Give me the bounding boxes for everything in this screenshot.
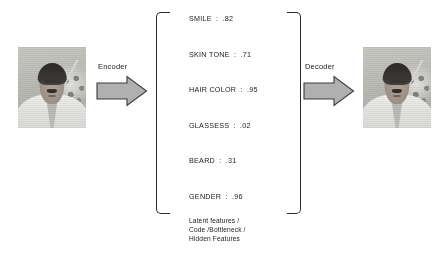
latent-caption-line: Code /Bottleneck / — [189, 225, 246, 234]
latent-feature-value: .02 — [240, 121, 251, 130]
latent-feature-name: BEARD — [189, 156, 215, 165]
latent-caption-line: Latent features / — [189, 216, 246, 225]
encoder-label: Encoder — [96, 62, 148, 71]
latent-feature-name: SMILE — [189, 14, 212, 23]
latent-feature-value: .31 — [226, 156, 237, 165]
latent-feature-separator: : — [240, 85, 242, 94]
latent-feature-value: .96 — [232, 192, 243, 201]
latent-feature-row: GLASSESS : .02 — [189, 121, 289, 157]
latent-caption-line: Hidden Features — [189, 234, 246, 243]
latent-feature-name: HAIR COLOR — [189, 85, 236, 94]
latent-feature-separator: : — [234, 50, 236, 59]
encoder-group: Encoder — [96, 62, 148, 107]
latent-feature-row: BEARD : .31 — [189, 156, 289, 192]
right-block-arrow-icon — [96, 75, 148, 107]
latent-feature-row: SKIN TONE : .71 — [189, 50, 289, 86]
latent-feature-name: SKIN TONE — [189, 50, 230, 59]
decoder-label: Decoder — [303, 62, 355, 71]
decoder-group: Decoder — [303, 62, 355, 107]
latent-feature-row: SMILE : .82 — [189, 14, 289, 50]
latent-bracket-right — [287, 12, 301, 214]
latent-caption: Latent features / Code /Bottleneck / Hid… — [189, 216, 246, 244]
right-block-arrow-icon — [303, 75, 355, 107]
photo-grain-overlay — [363, 47, 431, 128]
input-image — [18, 47, 86, 128]
latent-feature-value: .71 — [240, 50, 251, 59]
latent-feature-separator: : — [226, 192, 228, 201]
latent-feature-name: GLASSESS — [189, 121, 229, 130]
latent-feature-separator: : — [219, 156, 221, 165]
latent-feature-separator: : — [234, 121, 236, 130]
latent-feature-list: SMILE : .82 SKIN TONE : .71 HAIR COLOR :… — [189, 14, 289, 227]
autoencoder-diagram: Encoder SMILE : .82 SKIN TONE : .71 HAIR… — [0, 0, 443, 257]
latent-feature-name: GENDER — [189, 192, 221, 201]
latent-feature-value: .82 — [223, 14, 234, 23]
latent-bracket-left — [156, 12, 170, 214]
photo-grain-overlay — [18, 47, 86, 128]
latent-feature-separator: : — [216, 14, 218, 23]
latent-feature-value: .95 — [247, 85, 258, 94]
latent-feature-row: HAIR COLOR : .95 — [189, 85, 289, 121]
output-image — [363, 47, 431, 128]
